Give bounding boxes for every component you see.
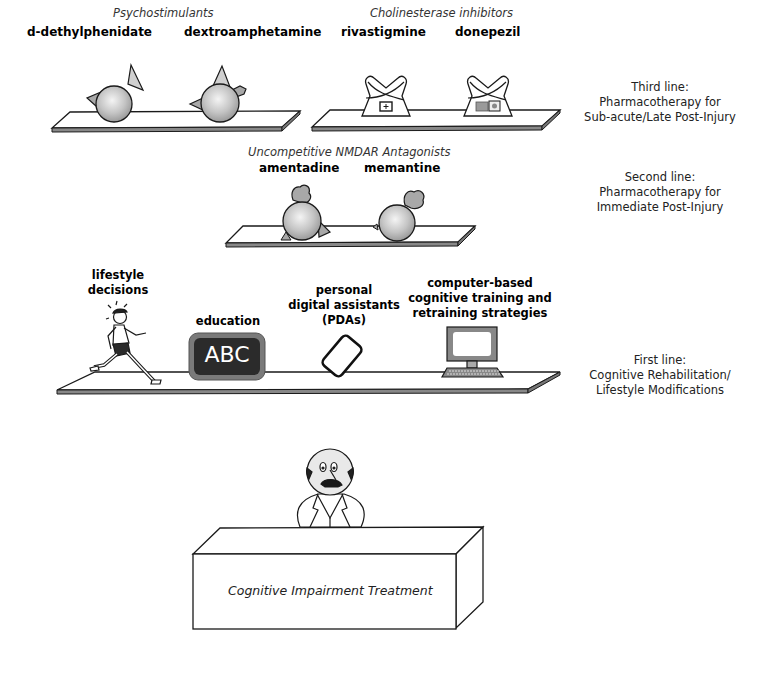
- computer-icon: [442, 327, 503, 377]
- shelf-third-line-right: [312, 110, 560, 131]
- patch-icon-donepezil: [464, 76, 512, 116]
- tier-note-line: Second line:: [565, 170, 755, 185]
- drug-label-dextroamphetamine: dextroamphetamine: [184, 25, 321, 39]
- item-label-pdas: personal digital assistants (PDAs): [284, 283, 404, 328]
- drug-label-amentadine: amentadine: [259, 161, 340, 175]
- item-label-line: (PDAs): [284, 313, 404, 328]
- tier-note-line: Sub-acute/Late Post-Injury: [565, 110, 755, 125]
- drug-label-d-dethylphenidate: d-dethylphenidate: [27, 25, 152, 39]
- drug-label-memantine: memantine: [364, 161, 440, 175]
- patch-icon-rivastigmine: [362, 76, 410, 116]
- tier-note-second-line: Second line: Pharmacotherapy for Immedia…: [565, 170, 755, 215]
- item-label-line: decisions: [78, 283, 158, 298]
- item-label-line: lifestyle: [78, 268, 158, 283]
- category-label-psychostimulants: Psychostimulants: [113, 6, 214, 20]
- drug-label-donepezil: donepezil: [455, 25, 520, 39]
- item-label-computer-training: computer-based cognitive training and re…: [400, 276, 560, 321]
- tier-note-line: Third line:: [565, 80, 755, 95]
- item-label-education: education: [180, 314, 276, 329]
- item-label-line: education: [180, 314, 276, 329]
- item-label-lifestyle-decisions: lifestyle decisions: [78, 268, 158, 298]
- tier-note-line: First line:: [560, 353, 760, 368]
- tier-note-line: Cognitive Rehabilitation/: [560, 368, 760, 383]
- item-label-line: retraining strategies: [400, 306, 560, 321]
- blackboard-text: ABC: [194, 342, 260, 367]
- desk: [193, 527, 483, 629]
- tier-note-line: Pharmacotherapy for: [565, 185, 755, 200]
- tier-note-line: Pharmacotherapy for: [565, 95, 755, 110]
- tier-note-third-line: Third line: Pharmacotherapy for Sub-acut…: [565, 80, 755, 125]
- molecule-icon-amentadine: [281, 185, 330, 240]
- desk-label: Cognitive Impairment Treatment: [228, 583, 433, 598]
- category-label-cholinesterase-inhibitors: Cholinesterase inhibitors: [370, 6, 513, 20]
- item-label-line: digital assistants: [284, 298, 404, 313]
- drug-label-rivastigmine: rivastigmine: [341, 25, 426, 39]
- item-label-line: personal: [284, 283, 404, 298]
- item-label-line: cognitive training and: [400, 291, 560, 306]
- doctor-icon: [297, 449, 364, 527]
- tier-note-line: Immediate Post-Injury: [565, 200, 755, 215]
- shelf-third-line-left: [52, 111, 300, 132]
- shelf-second-line: [226, 226, 475, 247]
- category-label-nmdar-antagonists: Uncompetitive NMDAR Antagonists: [248, 145, 451, 159]
- tier-note-line: Lifestyle Modifications: [560, 383, 760, 398]
- tier-note-first-line: First line: Cognitive Rehabilitation/ Li…: [560, 353, 760, 398]
- item-label-line: computer-based: [400, 276, 560, 291]
